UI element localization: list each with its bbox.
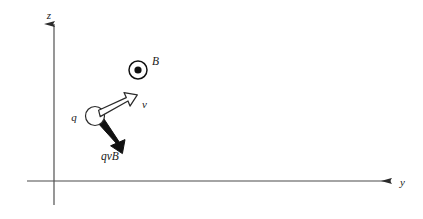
force-label: qvB [101,150,119,163]
diagram-canvas: z y B qvB q v [0,0,423,219]
field-label: B [152,55,159,67]
physics-diagram-figure: z y B qvB q v [0,0,423,219]
z-axis-label: z [46,9,52,21]
velocity-arrow-shape [99,93,138,117]
velocity-vector-group: v [99,93,147,117]
velocity-label: v [142,98,147,110]
axes-group: z y [27,9,405,205]
charge-label: q [71,111,77,123]
magnetic-field-group: B [129,55,159,79]
field-dot-icon [134,66,141,73]
y-axis-label: y [399,176,405,188]
